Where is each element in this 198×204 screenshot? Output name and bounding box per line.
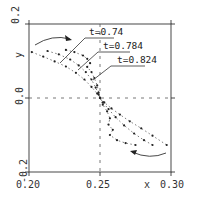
data-point [112,129,114,131]
data-point [65,49,67,51]
x-tick-mid: 0.25 [86,179,110,190]
data-point [134,144,136,146]
data-point [109,117,111,119]
data-point [86,58,88,60]
data-point [107,124,109,126]
data-point [95,87,97,89]
y-tick-top: 0.2 [10,6,21,24]
data-point [106,110,108,112]
data-point [143,139,145,141]
data-point [46,50,48,52]
data-point [78,64,80,66]
data-point [69,58,71,60]
data-point [125,142,127,144]
data-point [98,91,100,93]
data-point [151,144,153,146]
data-point [99,97,101,99]
data-point [140,127,142,129]
data-point [115,116,117,118]
data-point [89,62,91,64]
data-point [102,104,104,106]
data-point [82,54,84,56]
chart: t=0.74 t=0.784 t=0.824 0.2 0.0 -0.2 y 0.… [0,0,198,204]
label-t0784: t=0.784 [103,40,143,51]
data-point [123,124,125,126]
data-point [65,65,67,67]
arrow-lower-right [132,152,166,156]
data-point [83,78,85,80]
data-point [166,144,168,146]
x-axis-label: x [144,179,150,190]
x-tick-right: 0.30 [160,179,184,190]
data-point [90,78,92,80]
data-point [96,84,98,86]
arrow-head-right-icon [65,35,72,41]
data-point [90,86,92,88]
data-point [73,51,75,53]
data-point [151,135,153,137]
data-point [129,120,131,122]
data-point [107,108,109,110]
data-point [116,139,118,141]
y-axis-label: y [13,52,24,58]
x-tick-left: 0.20 [16,179,40,190]
label-t074: t=0.74 [89,26,124,37]
data-point [54,60,56,62]
data-point [133,132,135,134]
y-tick-mid: 0.0 [14,87,25,105]
leader-t0824 [93,66,145,80]
data-point [119,114,121,116]
arrow-head-left-icon [130,150,137,155]
data-point [90,71,92,73]
arrow-upper-left [35,37,70,45]
data-point [85,71,87,73]
data-point [109,134,111,136]
label-t0824: t=0.824 [117,54,157,65]
data-point [58,53,60,55]
data-point [31,51,33,53]
data-point [42,56,44,58]
data-point [86,66,88,68]
data-point [75,72,77,74]
data-point [110,107,112,109]
